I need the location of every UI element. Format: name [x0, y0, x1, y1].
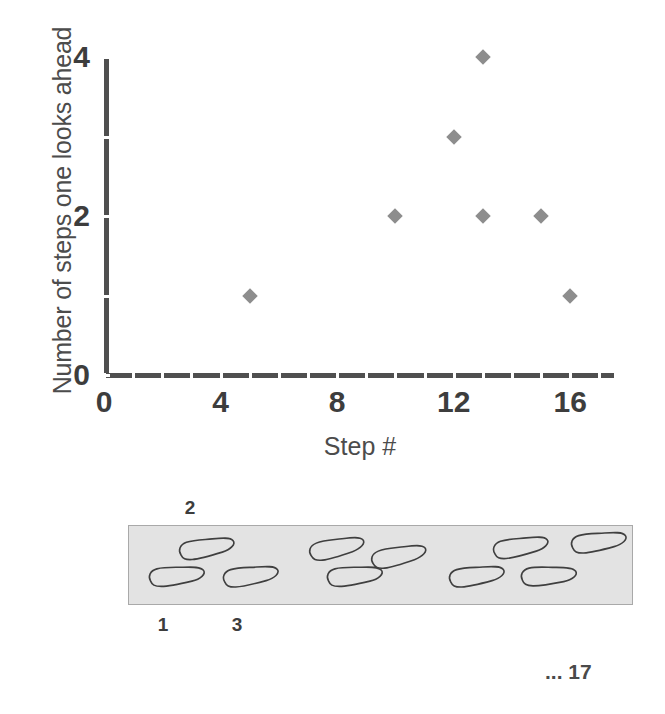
y-tick-label-4: 4	[73, 42, 90, 72]
y-minor-tick-3	[103, 136, 110, 139]
footprint-label-below-1: 1	[158, 615, 169, 634]
x-tick-4	[220, 373, 223, 378]
x-tick-15	[540, 373, 543, 378]
x-tick-9	[365, 373, 368, 378]
x-tick-11	[424, 373, 427, 378]
x-tick-8	[336, 373, 339, 378]
y-tick-4	[103, 56, 110, 59]
plot-area: 024 0481216	[104, 57, 614, 375]
x-tick-5	[249, 373, 252, 378]
footprint-label-above-2: 2	[185, 498, 196, 517]
footprint-label-below-3: 3	[232, 615, 243, 634]
data-point	[475, 49, 491, 65]
x-tick-10	[394, 373, 397, 378]
x-tick-7	[307, 373, 310, 378]
y-tick-label-0: 0	[73, 360, 90, 390]
data-point	[242, 288, 258, 304]
x-tick-17	[598, 373, 601, 378]
x-tick-0	[103, 373, 106, 378]
x-axis-title: Step #	[110, 432, 610, 461]
y-tick-label-2: 2	[73, 201, 90, 231]
figure-panel: Number of steps one looks ahead 024 0481…	[0, 0, 665, 714]
x-tick-14	[511, 373, 514, 378]
x-tick-label-0: 0	[96, 387, 113, 417]
x-axis-line	[104, 373, 614, 378]
data-point	[446, 129, 462, 145]
scatter-chart: Number of steps one looks ahead 024 0481…	[0, 0, 665, 470]
y-tick-2	[103, 215, 110, 218]
x-tick-label-8: 8	[329, 387, 346, 417]
x-tick-13	[482, 373, 485, 378]
x-tick-12	[453, 373, 456, 378]
data-point	[563, 288, 579, 304]
x-tick-label-4: 4	[212, 387, 229, 417]
y-axis-title: Number of steps one looks ahead	[48, 21, 77, 401]
continuation-label: ... 17	[545, 660, 592, 684]
x-tick-label-12: 12	[437, 387, 470, 417]
x-tick-3	[190, 373, 193, 378]
x-tick-2	[161, 373, 164, 378]
y-minor-tick-1	[103, 295, 110, 298]
data-point	[475, 208, 491, 224]
footprint-diagram: 213 ... 17	[0, 470, 665, 714]
data-point	[388, 208, 404, 224]
x-tick-6	[278, 373, 281, 378]
x-tick-16	[569, 373, 572, 378]
x-tick-label-16: 16	[554, 387, 587, 417]
data-point	[533, 208, 549, 224]
x-tick-1	[132, 373, 135, 378]
